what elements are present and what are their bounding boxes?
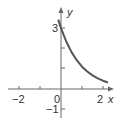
y-axis-label: y [66, 6, 74, 18]
tick-label-neg2: −2 [12, 93, 25, 105]
exponential-curve [59, 20, 108, 82]
tick-label-3: 3 [52, 22, 58, 34]
y-axis-arrow-icon [59, 7, 64, 13]
y-ticks [61, 28, 65, 109]
x-axis-arrow-icon [108, 87, 114, 92]
tick-label-2: 2 [97, 93, 103, 105]
x-axis-label: x [107, 93, 114, 105]
function-graph: y x −2 0 2 3 −1 [0, 0, 117, 124]
tick-label-neg1: −1 [46, 103, 59, 115]
